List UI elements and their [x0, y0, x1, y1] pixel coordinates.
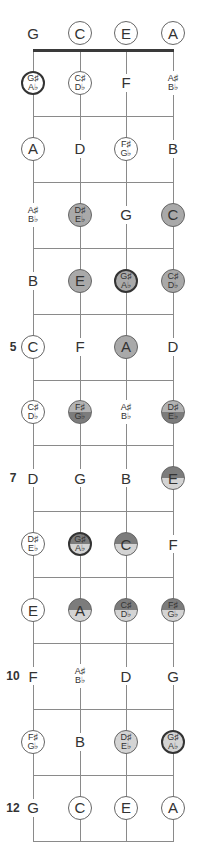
note-E-string-fret-12: E	[114, 796, 138, 820]
note-E-string-fret-2: F♯G♭	[114, 137, 138, 161]
fret-line-6	[33, 445, 174, 446]
note-name: G	[27, 800, 39, 815]
note-A-string-fret-6: D♯E♭	[161, 400, 185, 424]
note-flat-name: G♭	[27, 742, 38, 751]
note-name: G	[27, 26, 39, 41]
note-name: F	[28, 669, 37, 684]
fret-number-12: 12	[6, 801, 19, 815]
note-label: C	[168, 207, 179, 222]
note-G-string-fret-7: D	[23, 469, 43, 487]
note-flat-name: G♭	[74, 412, 85, 421]
note-G-string-fret-12: G	[23, 799, 43, 817]
note-label: G♯A♭	[74, 535, 86, 553]
note-label: B	[121, 471, 131, 486]
note-label: C♯D♭	[28, 403, 39, 421]
nut-line	[33, 49, 174, 52]
note-G-string-fret-1: G♯A♭	[21, 71, 45, 95]
note-G-string-fret-11: F♯G♭	[21, 730, 45, 754]
note-flat-name: G♭	[120, 149, 131, 158]
note-label: G	[167, 669, 179, 684]
note-name: A	[121, 339, 131, 354]
note-A-string-fret-3: C	[161, 203, 185, 227]
note-flat-name: B♭	[75, 676, 85, 685]
note-name: E	[168, 471, 178, 486]
note-label: D	[168, 339, 179, 354]
note-name: B	[28, 273, 38, 288]
note-label: C♯D♭	[75, 74, 86, 92]
note-label: A♯B♭	[121, 403, 132, 421]
note-name: B	[121, 471, 131, 486]
note-label: C♯D♭	[121, 601, 132, 619]
note-E-string-fret-11: D♯E♭	[114, 730, 138, 754]
note-E-string-fret-8: C	[114, 532, 138, 556]
note-E-string-fret-5: A	[114, 335, 138, 359]
note-label: A	[121, 339, 131, 354]
note-flat-name: E♭	[168, 412, 178, 421]
fret-line-8	[33, 577, 174, 578]
note-A-string-fret-7: E	[161, 466, 185, 490]
note-flat-name: E♭	[75, 215, 85, 224]
note-flat-name: B♭	[28, 215, 38, 224]
note-label: F	[28, 669, 37, 684]
note-label: B	[168, 141, 178, 156]
note-A-string-fret-0: A	[161, 21, 185, 45]
note-E-string-fret-4: G♯A♭	[114, 269, 138, 293]
note-label: A♯B♭	[168, 74, 179, 92]
fret-number-5: 5	[10, 340, 17, 354]
note-name: E	[121, 26, 131, 41]
note-label: C	[75, 800, 86, 815]
note-C-string-fret-10: A♯B♭	[70, 664, 90, 688]
note-G-string-fret-3: A♯B♭	[23, 203, 43, 227]
note-flat-name: A♭	[75, 544, 85, 553]
note-name: C	[75, 26, 86, 41]
note-label: B	[28, 273, 38, 288]
note-C-string-fret-12: C	[68, 796, 92, 820]
note-label: E	[121, 800, 131, 815]
note-flat-name: A♭	[121, 281, 131, 290]
note-label: E	[28, 603, 38, 618]
note-label: F♯G♭	[74, 403, 85, 421]
note-label: A	[168, 800, 178, 815]
note-label: G	[74, 471, 86, 486]
note-name: G	[74, 471, 86, 486]
note-name: B	[168, 141, 178, 156]
note-name: D	[121, 669, 132, 684]
note-C-string-fret-1: C♯D♭	[68, 71, 92, 95]
note-name: B	[75, 734, 85, 749]
note-G-string-fret-10: F	[23, 667, 43, 685]
note-label: D♯E♭	[121, 733, 132, 751]
fret-line-5	[33, 380, 174, 381]
note-E-string-fret-1: F	[116, 74, 136, 92]
note-name: E	[28, 603, 38, 618]
note-G-string-fret-9: E	[21, 598, 45, 622]
fret-line-12	[33, 841, 174, 842]
note-E-string-fret-3: G	[116, 206, 136, 224]
fret-line-1	[33, 116, 174, 117]
fret-line-3	[33, 248, 174, 249]
note-C-string-fret-0: C	[68, 21, 92, 45]
note-flat-name: B♭	[168, 83, 178, 92]
note-label: D♯E♭	[168, 403, 179, 421]
note-name: F	[121, 75, 130, 90]
note-label: G	[27, 26, 39, 41]
note-name: A	[75, 603, 85, 618]
note-name: C	[121, 537, 132, 552]
note-flat-name: D♭	[121, 610, 132, 619]
note-name: G	[167, 669, 179, 684]
note-A-string-fret-2: B	[163, 140, 183, 158]
note-C-string-fret-9: A	[68, 598, 92, 622]
note-label: D♯E♭	[75, 206, 86, 224]
fret-line-11	[33, 775, 174, 776]
note-name: A	[168, 26, 178, 41]
note-label: E	[121, 26, 131, 41]
note-C-string-fret-5: F	[70, 338, 90, 356]
note-label: A♯B♭	[75, 667, 86, 685]
note-name: E	[121, 800, 131, 815]
note-G-string-fret-5: C	[21, 335, 45, 359]
note-label: G♯A♭	[120, 272, 132, 290]
note-label: A	[168, 26, 178, 41]
note-flat-name: A♭	[168, 742, 178, 751]
note-flat-name: D♭	[168, 281, 179, 290]
note-label: G	[27, 800, 39, 815]
note-name: D	[28, 471, 39, 486]
